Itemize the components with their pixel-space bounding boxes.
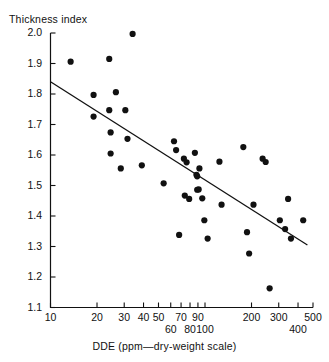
data-point	[285, 196, 291, 202]
data-point	[90, 92, 96, 98]
x-tick-label: 90	[192, 311, 204, 323]
data-point	[288, 235, 294, 241]
x-tick-label: 70	[175, 311, 187, 323]
data-point	[90, 113, 96, 119]
y-tick-label: 1.9	[8, 57, 42, 69]
y-tick-label: 1.1	[8, 301, 42, 313]
x-tick-label: 10	[45, 311, 57, 323]
data-point	[199, 195, 205, 201]
x-tick-label: 60	[165, 323, 177, 335]
data-point	[108, 129, 114, 135]
data-point	[205, 235, 211, 241]
data-points	[68, 31, 307, 292]
data-point	[173, 147, 179, 153]
data-point	[250, 202, 256, 208]
data-point	[246, 250, 252, 256]
y-tick-label: 1.4	[8, 209, 42, 221]
y-tick-label: 1.3	[8, 240, 42, 252]
x-tick-label: 500	[304, 311, 322, 323]
y-tick-label: 1.8	[8, 87, 42, 99]
data-point	[201, 217, 207, 223]
data-point	[240, 144, 246, 150]
y-axis-ticks	[51, 33, 56, 308]
x-tick-label: 40	[138, 311, 150, 323]
x-tick-label: 200	[243, 311, 261, 323]
data-point	[194, 173, 200, 179]
y-axis-title: Thickness index	[9, 13, 87, 25]
data-point	[216, 159, 222, 165]
y-tick-label: 1.7	[8, 118, 42, 130]
x-tick-label: 20	[91, 311, 103, 323]
data-point	[192, 150, 198, 156]
y-tick-label: 2.0	[8, 26, 42, 38]
data-point	[263, 159, 269, 165]
data-point	[68, 59, 74, 65]
data-point	[300, 217, 306, 223]
x-tick-label: 300	[270, 311, 288, 323]
data-point	[122, 107, 128, 113]
data-point	[113, 89, 119, 95]
x-tick-label: 100	[196, 323, 214, 335]
y-tick-label: 1.6	[8, 148, 42, 160]
data-point	[108, 150, 114, 156]
x-tick-label: 50	[153, 311, 165, 323]
x-tick-label: 400	[289, 323, 307, 335]
axis-lines	[50, 33, 313, 308]
data-point	[277, 217, 283, 223]
regression-line-segment	[51, 82, 308, 245]
data-point	[130, 31, 136, 37]
data-point	[183, 159, 189, 165]
data-point	[196, 165, 202, 171]
y-tick-label: 1.2	[8, 270, 42, 282]
data-point	[161, 180, 167, 186]
data-point	[196, 186, 202, 192]
x-tick-label: 30	[118, 311, 130, 323]
data-point	[186, 196, 192, 202]
data-point	[267, 285, 273, 291]
y-tick-label: 1.5	[8, 179, 42, 191]
regression-line	[51, 82, 308, 245]
x-tick-label: 80	[184, 323, 196, 335]
data-point	[106, 107, 112, 113]
data-point	[176, 232, 182, 238]
data-point	[139, 162, 145, 168]
plot-canvas	[0, 0, 329, 362]
x-axis-title: DDE (ppm—dry-weight scale)	[0, 340, 329, 352]
data-point	[282, 226, 288, 232]
data-point	[124, 136, 130, 142]
data-point	[118, 165, 124, 171]
scatter-plot-figure: Thickness index 1.11.21.31.41.51.61.71.8…	[0, 0, 329, 362]
data-point	[244, 229, 250, 235]
x-axis-ticks	[51, 303, 314, 308]
data-point	[171, 138, 177, 144]
data-point	[218, 202, 224, 208]
data-point	[106, 56, 112, 62]
